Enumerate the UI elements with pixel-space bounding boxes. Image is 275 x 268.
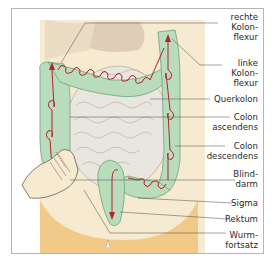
label-sigma: Sigma <box>231 198 258 208</box>
label-rechte-kolonflexur: rechte Kolon- flexur <box>231 12 258 43</box>
label-wurmfortsatz: Wurm- fortsatz <box>225 230 258 250</box>
label-colon-ascendens: Colon ascendens <box>212 112 258 132</box>
label-blinddarm: Blind- darm <box>233 169 258 189</box>
label-rektum: Rektum <box>225 214 258 224</box>
label-linke-kolonflexur: linke Kolon- flexur <box>231 58 258 89</box>
label-querkolon: Querkolon <box>214 94 258 104</box>
stomach-liver <box>90 22 145 52</box>
label-colon-descendens: Colon descendens <box>207 141 258 161</box>
